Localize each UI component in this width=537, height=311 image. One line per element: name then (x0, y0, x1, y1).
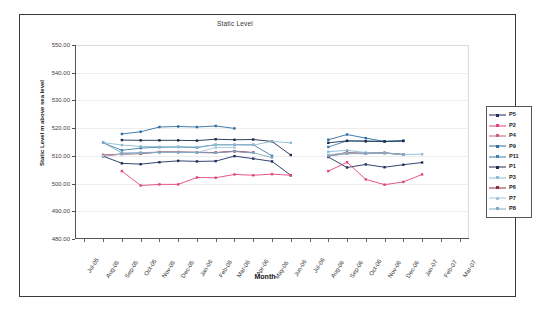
data-point (290, 142, 292, 144)
x-tick-mark (385, 239, 386, 242)
legend-swatch-icon (489, 153, 506, 161)
data-point (402, 140, 404, 142)
x-tick-mark (272, 239, 273, 242)
data-point (215, 138, 217, 140)
plot-area: 550.00540.00530.00520.00510.00500.00490.… (75, 45, 469, 239)
series-P5 (102, 155, 423, 177)
data-point (158, 183, 160, 185)
legend-label: P4 (506, 133, 516, 139)
data-point (327, 155, 329, 157)
data-point (215, 146, 217, 148)
x-tick-mark (234, 239, 235, 242)
legend-item-P3[interactable]: P3 (489, 172, 529, 182)
legend-swatch-icon (489, 111, 506, 119)
data-point (290, 174, 292, 176)
data-point (102, 141, 104, 143)
data-point (177, 151, 179, 153)
legend-label: P11 (506, 154, 519, 160)
x-tick-label: Jul-06 (312, 257, 326, 274)
y-axis-title: Static Level m above sea level (39, 53, 45, 193)
legend-label: P6 (506, 185, 516, 191)
legend-item-P2[interactable]: P2 (489, 120, 529, 130)
legend-label: P1 (506, 164, 516, 170)
data-point (233, 127, 235, 129)
data-point (121, 170, 123, 172)
y-tick-mark (72, 239, 75, 240)
data-point (121, 133, 123, 135)
data-point (346, 166, 348, 168)
data-point (327, 139, 329, 141)
legend-item-P5[interactable]: P5 (489, 110, 529, 120)
x-tick-label: Mar-07 (461, 259, 476, 278)
y-tick-label: 520.00 (52, 125, 70, 131)
data-point (383, 152, 385, 154)
data-point (121, 139, 123, 141)
legend-item-P11[interactable]: P11 (489, 152, 529, 162)
data-point (121, 144, 123, 146)
data-point (271, 140, 273, 142)
data-point (346, 152, 348, 154)
legend-swatch-icon (489, 142, 506, 150)
x-tick-mark (460, 239, 461, 242)
data-point (402, 181, 404, 183)
legend-swatch-icon (489, 163, 506, 171)
data-point (196, 139, 198, 141)
legend-item-P1[interactable]: P1 (489, 162, 529, 172)
legend-swatch-icon (489, 132, 506, 140)
data-point (346, 149, 348, 151)
x-tick-mark (403, 239, 404, 242)
data-point (252, 174, 254, 176)
data-point (383, 183, 385, 185)
data-point (233, 155, 235, 157)
data-point (365, 140, 367, 142)
y-tick-label: 480.00 (52, 236, 70, 242)
data-point (365, 137, 367, 139)
data-point (215, 177, 217, 179)
series-P11 (102, 140, 405, 157)
legend-item-P8[interactable]: P8 (489, 204, 529, 214)
data-point (139, 145, 141, 147)
legend-label: P5 (506, 112, 516, 118)
data-point (139, 139, 141, 141)
data-point (139, 131, 141, 133)
data-point (233, 173, 235, 175)
data-point (383, 166, 385, 168)
data-point (252, 152, 254, 154)
data-point (271, 160, 273, 162)
data-point (402, 164, 404, 166)
data-point (290, 154, 292, 156)
x-tick-mark (141, 239, 142, 242)
legend-label: P9 (506, 144, 516, 150)
data-point (383, 140, 385, 142)
x-tick-mark (216, 239, 217, 242)
x-tick-mark (84, 239, 85, 242)
data-point (121, 152, 123, 154)
data-point (233, 144, 235, 146)
data-point (327, 151, 329, 153)
legend-label: P3 (506, 175, 516, 181)
series-line (122, 171, 291, 185)
x-tick-mark (197, 239, 198, 242)
data-point (365, 163, 367, 165)
y-tick-label: 510.00 (52, 153, 70, 159)
legend-label: P8 (506, 206, 516, 212)
legend-item-P7[interactable]: P7 (489, 193, 529, 203)
x-tick-mark (441, 239, 442, 242)
data-point (252, 138, 254, 140)
data-point (177, 160, 179, 162)
data-point (327, 142, 329, 144)
data-point (233, 150, 235, 152)
data-point (421, 161, 423, 163)
series-P2 (121, 161, 424, 187)
series-line (103, 156, 291, 175)
data-point (177, 146, 179, 148)
data-point (327, 146, 329, 148)
y-tick-label: 500.00 (52, 181, 70, 187)
legend-swatch-icon (489, 174, 506, 182)
legend-item-P6[interactable]: P6 (489, 183, 529, 193)
legend-item-P4[interactable]: P4 (489, 131, 529, 141)
legend-item-P9[interactable]: P9 (489, 141, 529, 151)
data-point (177, 183, 179, 185)
x-tick-mark (122, 239, 123, 242)
data-point (346, 161, 348, 163)
